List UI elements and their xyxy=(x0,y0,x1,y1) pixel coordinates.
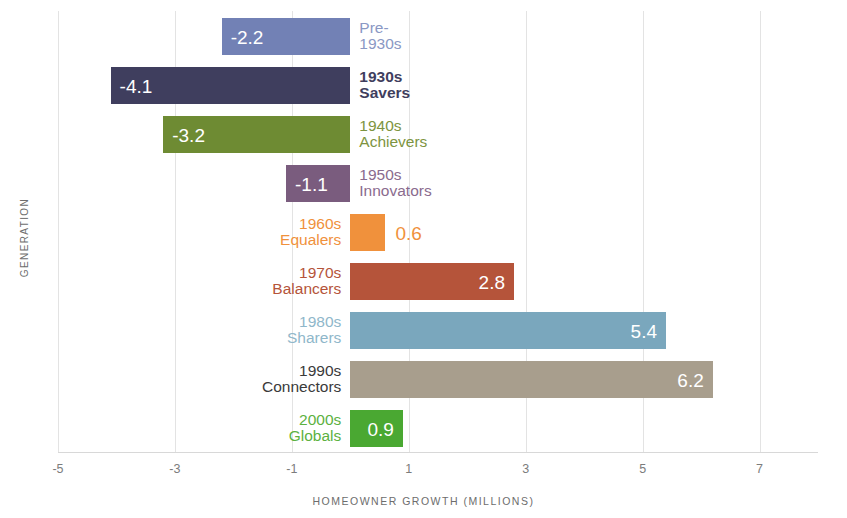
x-tick-label: 3 xyxy=(496,462,556,476)
category-label: 1980sSharers xyxy=(287,314,341,347)
category-label-line2: Sharers xyxy=(287,331,341,348)
plot-area: -2.2Pre-1930s-4.11930sSavers-3.21940sAch… xyxy=(58,11,818,452)
bar-row[interactable]: -1.11950sInnovators xyxy=(58,165,818,202)
x-tick-label: 1 xyxy=(379,462,439,476)
bar-row[interactable]: -2.2Pre-1930s xyxy=(58,18,818,55)
bar-value-label: -3.2 xyxy=(172,125,205,144)
bar-row[interactable]: 0.61960sEqualers xyxy=(58,214,818,251)
category-label: 2000sGlobals xyxy=(289,412,342,445)
bar[interactable] xyxy=(350,361,712,398)
category-label-line2: Equalers xyxy=(280,233,341,250)
category-label-line1: 1970s xyxy=(272,265,341,282)
bar-value-label: 2.8 xyxy=(479,272,505,291)
bar-value-label: 5.4 xyxy=(631,321,657,340)
x-tick-label: -1 xyxy=(262,462,322,476)
bar-row[interactable]: 5.41980sSharers xyxy=(58,312,818,349)
bar-row[interactable]: -3.21940sAchievers xyxy=(58,116,818,153)
category-label-line1: 1990s xyxy=(262,363,341,380)
category-label-line1: 1980s xyxy=(287,314,341,331)
x-tick-label: -3 xyxy=(145,462,205,476)
bar-value-label: -1.1 xyxy=(295,174,328,193)
category-label-line2: 1930s xyxy=(359,37,401,54)
x-tick-label: 5 xyxy=(613,462,673,476)
bar-value-label: -2.2 xyxy=(231,27,264,46)
x-axis-title: HOMEOWNER GROWTH (MILLIONS) xyxy=(0,495,847,507)
x-tick-label: 7 xyxy=(730,462,790,476)
x-axis-line xyxy=(58,452,818,453)
category-label: 1950sInnovators xyxy=(359,167,431,200)
x-tick-label: -5 xyxy=(28,462,88,476)
category-label-line1: 1930s xyxy=(359,69,410,86)
category-label-line1: 1940s xyxy=(359,118,427,135)
bar-value-label: 6.2 xyxy=(677,370,703,389)
category-label-line2: Balancers xyxy=(272,282,341,299)
category-label-line2: Innovators xyxy=(359,184,431,201)
bar-value-label: 0.9 xyxy=(368,419,394,438)
bar-row[interactable]: 0.92000sGlobals xyxy=(58,410,818,447)
bar-row[interactable]: 2.81970sBalancers xyxy=(58,263,818,300)
category-label: 1960sEqualers xyxy=(280,216,341,249)
bar[interactable] xyxy=(350,312,666,349)
category-label: Pre-1930s xyxy=(359,20,401,53)
category-label: 1940sAchievers xyxy=(359,118,427,151)
category-label-line2: Globals xyxy=(289,429,342,446)
bar-row[interactable]: -4.11930sSavers xyxy=(58,67,818,104)
category-label-line2: Achievers xyxy=(359,135,427,152)
bar[interactable] xyxy=(350,214,385,251)
category-label: 1970sBalancers xyxy=(272,265,341,298)
bar-value-label: -4.1 xyxy=(120,76,153,95)
category-label-line2: Savers xyxy=(359,86,410,103)
bar-value-label: 0.6 xyxy=(395,223,421,242)
category-label-line2: Connectors xyxy=(262,380,341,397)
bar-chart: GENERATION -2.2Pre-1930s-4.11930sSavers-… xyxy=(0,0,847,518)
category-label-line1: 1950s xyxy=(359,167,431,184)
bar-row[interactable]: 6.21990sConnectors xyxy=(58,361,818,398)
category-label: 1990sConnectors xyxy=(262,363,341,396)
category-label: 1930sSavers xyxy=(359,69,410,102)
category-label-line1: Pre- xyxy=(359,20,401,37)
category-label-line1: 2000s xyxy=(289,412,342,429)
y-axis-title: GENERATION xyxy=(19,178,30,298)
category-label-line1: 1960s xyxy=(280,216,341,233)
